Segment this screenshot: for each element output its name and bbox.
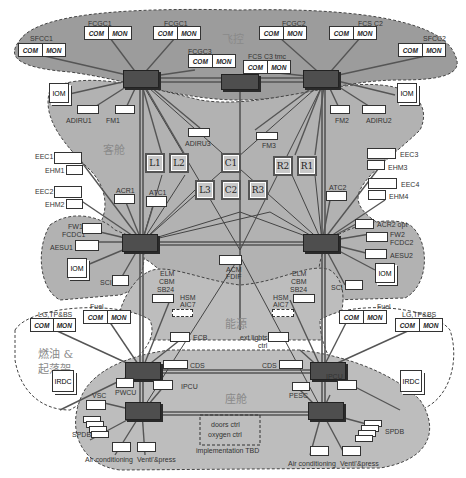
pesc-label: PESC (289, 392, 308, 400)
fcgc1b-unit: COMMON (153, 26, 201, 40)
adiru3-box (188, 128, 210, 137)
ipcu-right-box (337, 380, 357, 390)
sfcc2-unit: COMMON (398, 43, 446, 57)
ecb-label: ECB (193, 334, 207, 342)
cabinet-r2: R2 (273, 156, 293, 176)
ehm4-label: EHM4 (389, 193, 408, 201)
adiru2-label: ADIRU2 (366, 117, 392, 125)
implementation-tbd-label: implementation TBD (196, 447, 259, 455)
pwcu-label: PWCU (115, 389, 136, 397)
switch-top-right (303, 70, 339, 88)
vent-left-label: Venti'&press (137, 456, 176, 464)
vent-right-label: Venti'&press (340, 460, 379, 468)
switch-top-left (123, 70, 159, 88)
elm-left-3: SB24 (157, 286, 174, 294)
fw2-box (366, 232, 388, 242)
iom-left-top: IOM (49, 83, 69, 103)
zone-label-cockpit: 座舱 (225, 390, 247, 406)
adiru1-box (77, 105, 99, 114)
cabinet-r3: R3 (248, 180, 268, 200)
acr2-label: ACR2 opt (377, 221, 407, 229)
elm-left-box (152, 294, 174, 303)
oxygen-ctrl-label: oxygen ctrl (208, 431, 242, 439)
acm-fdif-box (219, 255, 242, 265)
vsc-label: VSC (92, 392, 106, 400)
elm-left-2: CBM (159, 278, 175, 286)
cabinet-l2: L2 (169, 153, 189, 173)
cds-left-box (163, 360, 188, 369)
ehm4-box (368, 190, 386, 200)
spdb-right-label: SPDB (385, 428, 404, 436)
cabinet-l3: L3 (195, 180, 215, 200)
iom-left-mid: IOM (67, 258, 87, 278)
sci-left-label: SCI (100, 279, 112, 287)
eec4-box (368, 178, 397, 189)
cabinet-l1: L1 (145, 153, 165, 173)
adiru2-box (362, 105, 386, 114)
adiru1-label: ADIRU1 (66, 117, 92, 125)
elm-right-3: SB24 (290, 286, 307, 294)
sfcc2-label: SFCC2 (423, 35, 446, 43)
fdif-label: FDIF (226, 273, 242, 281)
spdb-left-box-4 (91, 431, 109, 438)
eec3-label: EEC3 (400, 151, 418, 159)
eec2-box (54, 186, 82, 198)
fcgc2a-unit: COMMON (259, 26, 307, 40)
pesc-box (292, 382, 310, 391)
fw1-label: FW1 (68, 223, 83, 231)
fm1-label: FM1 (106, 117, 120, 125)
spdb-left-label: SPDB (72, 431, 91, 439)
ecb-box (170, 332, 190, 342)
fcgc3-unit: COMMON (188, 54, 236, 68)
ehm3-label: EHM3 (388, 164, 407, 172)
ext-lights-label-1: ext lights (240, 334, 268, 342)
hsm-left-2: AIC7 (180, 301, 196, 309)
aesu2-box (365, 249, 387, 259)
sci-right-label: SCI (331, 284, 343, 292)
zone-label-cabin: 客舱 (103, 141, 125, 157)
vent-right-box (342, 446, 361, 456)
eec1-label: EEC1 (35, 153, 53, 161)
cabinet-c2: C2 (221, 180, 241, 200)
elm-right-2: CBM (291, 278, 307, 286)
aircon-left-box (112, 442, 131, 452)
fm2-box (330, 105, 350, 114)
zone-label-fuel: 燃油 & (38, 345, 73, 361)
acr1-box (114, 194, 135, 204)
lgtpbs-right-unit: COMMON (395, 318, 443, 332)
pwcu-box (116, 378, 134, 388)
fw1-box (82, 223, 102, 234)
switch-bottom-right (308, 402, 344, 420)
aircon-right-box (310, 446, 329, 456)
cabinet-c1: C1 (221, 153, 241, 173)
zone-label-energy: 能源 (225, 315, 247, 331)
fcdc2-label: FCDC2 (390, 239, 413, 247)
aesu1-label: AESU1 (50, 244, 73, 252)
iom-right-mid: IOM (375, 263, 395, 283)
ext-lights-label-2: ctrl (258, 342, 267, 350)
doors-ctrl-label: doors ctrl (211, 421, 240, 429)
ehm1-label: EHM1 (45, 167, 64, 175)
avionics-network-diagram: 飞控 客舱 能源 燃油 & 起落架 座舱 SFCC1 COMMON FCGC1 … (0, 0, 466, 478)
fuel-left-unit: COMMON (83, 310, 131, 324)
sci-left-box (112, 275, 129, 286)
adiru3-label: ADIRU3 (185, 140, 211, 148)
fm1-box (115, 105, 135, 114)
fw2-label: FW2 (390, 231, 405, 239)
atc1-box (146, 196, 167, 207)
fcgc1a-unit: COMMON (84, 26, 132, 40)
sfcc1-unit: COMMON (18, 43, 66, 57)
cabinet-r1: R1 (297, 156, 317, 176)
irdc-right: IRDC (400, 370, 422, 392)
aircon-right-label: Air conditioning (288, 460, 336, 468)
aesu2-label: AESU2 (390, 252, 413, 260)
ehm3-box (367, 160, 385, 170)
ipcu-left-label: IPCU (181, 383, 198, 391)
hsm-right-2: AIC7 (273, 301, 289, 309)
iom-right-top: IOM (397, 83, 417, 103)
cds-right-label: CDS (262, 362, 277, 370)
zone-label-flight: 飞控 (222, 30, 244, 46)
elm-right-box (293, 294, 315, 303)
elm-right-1: ELM (292, 270, 306, 278)
switch-bottom-left (125, 402, 161, 420)
